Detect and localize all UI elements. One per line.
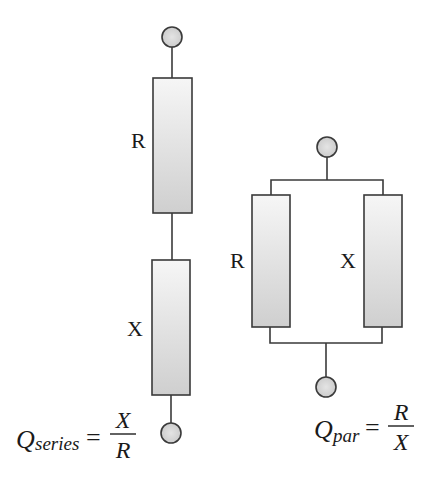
parallel-equals: = xyxy=(365,413,380,442)
parallel-numerator: R xyxy=(393,399,409,425)
parallel-circuit: R X xyxy=(230,137,402,397)
parallel-bottom-bus xyxy=(270,327,382,343)
series-q-symbol: Q xyxy=(16,425,35,454)
series-numerator: X xyxy=(115,407,132,433)
series-resistor-r xyxy=(153,78,192,213)
series-q-subscript: series xyxy=(35,433,79,454)
parallel-reactance-x xyxy=(364,195,402,327)
series-top-terminal xyxy=(162,27,182,47)
series-bottom-terminal xyxy=(161,423,181,443)
series-label-r: R xyxy=(131,128,146,153)
series-label-x: X xyxy=(127,316,143,341)
parallel-q-formula: Q par = R X xyxy=(314,399,414,455)
parallel-top-bus xyxy=(271,180,383,195)
series-q-formula: Q series = X R xyxy=(16,407,136,463)
parallel-top-terminal xyxy=(317,137,337,157)
circuit-diagram: R X Q series = X R R X Q par = R X xyxy=(0,0,428,489)
parallel-bottom-terminal xyxy=(316,377,336,397)
series-reactance-x xyxy=(152,260,190,395)
parallel-denominator: X xyxy=(393,429,410,455)
series-equals: = xyxy=(86,423,101,452)
parallel-q-subscript: par xyxy=(331,425,360,446)
series-denominator: R xyxy=(115,437,131,463)
parallel-label-r: R xyxy=(230,248,245,273)
parallel-resistor-r xyxy=(252,195,290,327)
parallel-q-symbol: Q xyxy=(314,415,333,444)
parallel-label-x: X xyxy=(340,248,356,273)
series-circuit: R X xyxy=(127,27,192,443)
